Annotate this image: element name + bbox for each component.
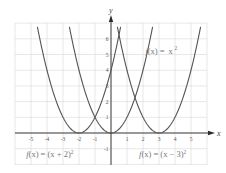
x-tick-label: 5 [190, 136, 193, 142]
y-axis-label: y [108, 6, 113, 15]
function-label: f(x) = (x − 3)2 [139, 149, 187, 160]
x-tick-label: -1 [93, 136, 98, 142]
x-axis-label: x [216, 129, 221, 138]
x-tick-label: 3 [158, 136, 161, 142]
function-label: f(x) = x 2 [145, 45, 177, 56]
y-tick-label: -1 [104, 146, 109, 152]
x-tick-label: 2 [142, 136, 145, 142]
y-tick-label: 6 [106, 36, 109, 42]
x-tick-label: 4 [174, 136, 177, 142]
y-tick-label: 5 [106, 52, 109, 58]
x-tick-label: -4 [45, 136, 50, 142]
function-label: f(x) = (x + 2)2 [26, 149, 74, 160]
y-axis-arrow-icon [109, 15, 113, 22]
y-tick-label: 1 [106, 114, 109, 120]
y-tick-label: 2 [106, 99, 109, 105]
x-axis-arrow-icon [208, 131, 215, 135]
x-tick-label: -5 [29, 136, 34, 142]
parabola-translation-chart: x y -5-4-3-2-112345-1123456 f(x) = (x + … [0, 0, 226, 173]
x-tick-label: -2 [77, 136, 82, 142]
y-tick-label: 4 [106, 67, 109, 73]
x-tick-label: -3 [61, 136, 66, 142]
y-axis: y [108, 6, 113, 165]
x-tick-label: 1 [126, 136, 129, 142]
